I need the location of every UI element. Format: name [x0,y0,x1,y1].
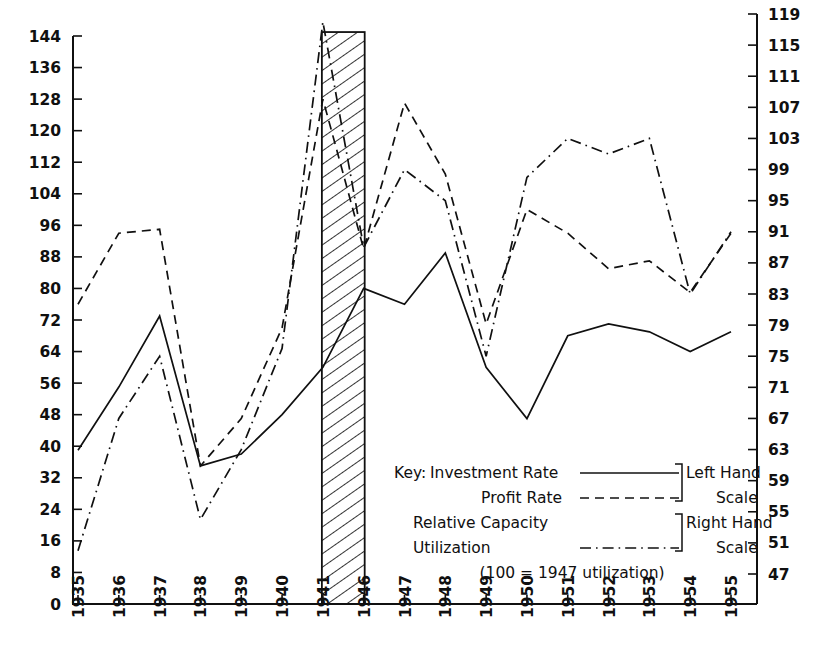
right-tick-label-115: 115 [768,37,800,55]
chart-figure: 0816243240485664728088961041121201281361… [0,0,823,661]
legend-left-scale-line1: Left Hand [686,464,761,482]
right-tick-label-103: 103 [768,130,800,148]
legend-label-investment-rate: Investment Rate [430,464,558,482]
x-tick-label-1939: 1939 [233,575,251,618]
x-tick-label-1946: 1946 [356,575,374,618]
left-tick-label-120: 120 [29,122,62,140]
right-tick-label-51: 51 [768,534,790,552]
x-tick-label-1935: 1935 [70,575,88,618]
legend-right-scale-line1: Right Hand [686,514,773,532]
left-tick-label-24: 24 [39,501,61,519]
left-tick-label-56: 56 [39,375,61,393]
right-tick-label-47: 47 [768,566,790,584]
right-tick-label-59: 59 [768,472,790,490]
left-tick-label-32: 32 [39,469,61,487]
right-tick-label-71: 71 [768,379,790,397]
war-years-band [322,32,365,604]
x-tick-label-1941: 1941 [315,575,333,618]
right-tick-label-91: 91 [768,223,790,241]
left-tick-label-80: 80 [39,280,61,298]
legend-label-relative-capacity: Relative Capacity [413,514,548,532]
series-line-investment-rate [78,253,731,466]
legend-brace-left-scale [675,464,682,501]
x-tick-label-1940: 1940 [274,575,292,618]
left-tick-label-64: 64 [39,343,61,361]
right-tick-label-111: 111 [768,68,800,86]
x-tick-label-1955: 1955 [723,575,741,618]
left-tick-label-16: 16 [39,532,61,550]
legend-label-profit-rate: Profit Rate [481,489,562,507]
x-tick-label-1948: 1948 [437,575,455,618]
x-tick-label-1938: 1938 [192,575,210,618]
right-tick-label-119: 119 [768,6,800,24]
left-tick-label-72: 72 [39,312,61,330]
left-tick-label-96: 96 [39,217,61,235]
left-tick-label-136: 136 [29,59,61,77]
left-tick-label-0: 0 [50,596,61,614]
war-years-shaded-rect [322,32,365,604]
right-tick-label-99: 99 [768,161,790,179]
x-tick-label-1937: 1937 [152,575,170,618]
left-tick-label-128: 128 [29,91,61,109]
right-tick-label-83: 83 [768,286,790,304]
right-tick-label-67: 67 [768,410,790,428]
chart-canvas: 0816243240485664728088961041121201281361… [0,0,823,661]
legend-brace-right-scale [675,514,682,551]
legend-key-label: Key: [394,464,426,482]
left-tick-label-40: 40 [39,438,61,456]
x-tick-label-1936: 1936 [111,575,129,618]
left-tick-label-112: 112 [29,154,61,172]
right-tick-label-107: 107 [768,99,800,117]
left-tick-label-144: 144 [29,28,62,46]
left-tick-label-48: 48 [39,406,61,424]
x-tick-label-1947: 1947 [397,575,415,618]
right-tick-label-63: 63 [768,441,790,459]
right-tick-label-75: 75 [768,348,790,366]
legend-right-scale-line2: Scale [716,539,758,557]
legend-note: (100 = 1947 utilization) [479,564,664,582]
legend-label-utilization: Utilization [413,539,491,557]
right-tick-label-95: 95 [768,192,790,210]
left-tick-label-8: 8 [50,564,61,582]
legend-left-scale-line2: Scale [716,489,758,507]
left-tick-label-88: 88 [39,248,61,266]
left-tick-label-104: 104 [29,185,62,203]
chart-legend: Key:Investment RateProfit RateRelative C… [394,464,773,582]
right-tick-label-79: 79 [768,317,790,335]
x-tick-label-1954: 1954 [682,575,700,618]
right-tick-label-87: 87 [768,254,790,272]
series-line-profit-rate [78,99,731,466]
